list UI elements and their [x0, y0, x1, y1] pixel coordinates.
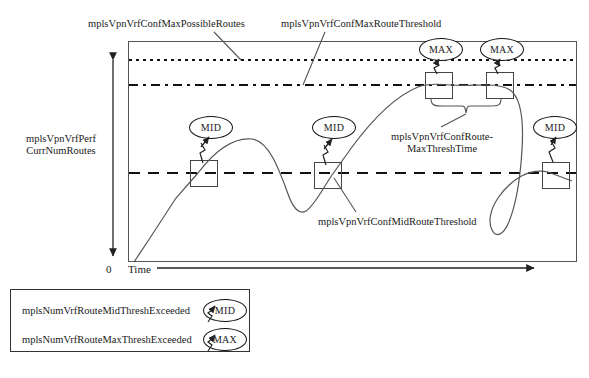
event-badge-mid-1: MID [189, 116, 233, 139]
legend-badge-mid: MID [203, 299, 247, 322]
label-route-max-thresh-time-line2: MaxThreshTime [373, 143, 511, 155]
event-marker-box-mid-2 [314, 162, 342, 189]
y-axis-label-line1: mplsVpnVrfPerf [14, 133, 108, 145]
label-max-possible-routes: mplsVpnVrfConfMaxPossibleRoutes [88, 18, 245, 30]
event-badge-mid-2: MID [312, 116, 356, 139]
event-marker-box-max-2 [486, 72, 514, 99]
event-marker-box-mid-3 [542, 162, 570, 189]
event-marker-box-mid-1 [190, 160, 218, 187]
event-badge-mid-3: MID [533, 116, 577, 139]
event-badge-max-1: MAX [419, 38, 463, 61]
event-badge-max-2: MAX [480, 38, 524, 61]
x-axis-origin: 0 [106, 263, 112, 275]
label-route-max-thresh-time-line1: mplsVpnVrfConfRoute- [373, 131, 511, 143]
legend-label-max: mplsNumVrfRouteMaxThreshExceeded [22, 334, 192, 345]
x-axis-label: Time [128, 263, 151, 275]
y-axis-label-line2: CurrNumRoutes [14, 145, 108, 157]
label-mid-route-threshold: mplsVpnVrfConfMidRouteThreshold [318, 216, 477, 228]
legend-badge-max: MAX [203, 328, 247, 351]
legend-label-mid: mplsNumVrfRouteMidThreshExceeded [22, 305, 190, 316]
event-marker-box-max-1 [425, 72, 453, 99]
label-max-route-threshold: mplsVpnVrfConfMaxRouteThreshold [281, 18, 441, 30]
